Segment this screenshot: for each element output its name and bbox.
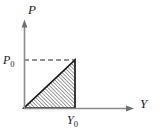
- pressure-volume-diagram: P Y P0 Y0: [0, 0, 162, 135]
- p0-subscript: 0: [10, 59, 14, 69]
- y0-subscript: 0: [74, 119, 78, 129]
- p0-tick-label: P0: [2, 53, 15, 69]
- hatched-triangle-region: [24, 60, 75, 108]
- vertical-axis: [22, 20, 28, 109]
- figure-container: P Y P0 Y0: [0, 0, 162, 135]
- horizontal-axis-label: Y: [140, 96, 149, 111]
- arrow-right-icon: [126, 106, 134, 112]
- y0-tick-label: Y0: [67, 113, 78, 129]
- arrow-up-icon: [22, 20, 28, 28]
- vertical-axis-label: P: [27, 2, 36, 17]
